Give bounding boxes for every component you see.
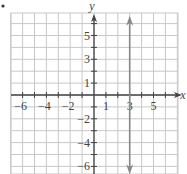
x-tick-label: 1 xyxy=(103,99,109,113)
x-axis-label: x xyxy=(179,88,186,102)
y-tick-label: 1 xyxy=(84,76,90,90)
y-tick-label: −6 xyxy=(77,159,90,173)
y-axis-label: y xyxy=(88,0,95,13)
coordinate-plane: xy−6−4−2135531−2−4−6 xyxy=(0,0,187,174)
x-tick-label: 5 xyxy=(151,99,157,113)
y-tick-label: −4 xyxy=(77,136,90,150)
x-tick-label: −4 xyxy=(38,99,51,113)
x-tick-label: −6 xyxy=(14,99,27,113)
y-tick-label: 5 xyxy=(84,29,90,43)
x-tick-label: −2 xyxy=(62,99,75,113)
y-tick-label: −2 xyxy=(77,112,90,126)
bullet-marker xyxy=(1,4,4,7)
y-tick-label: 3 xyxy=(84,52,90,66)
